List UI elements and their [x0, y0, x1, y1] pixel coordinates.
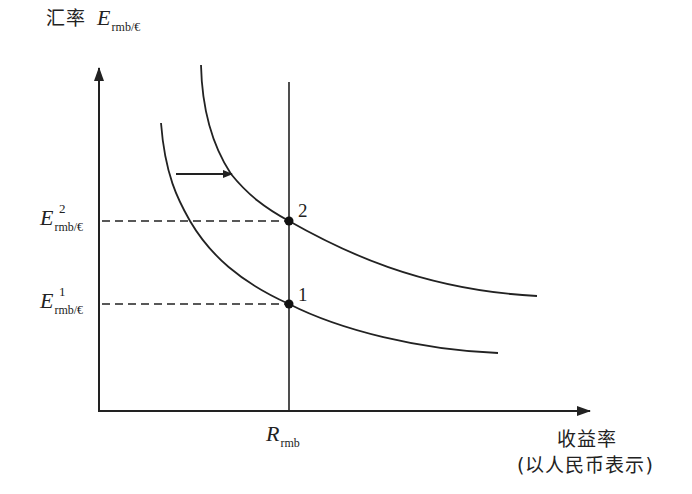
- shifted-demand-curve: [201, 65, 537, 296]
- y-axis-subscript: rmb/€: [112, 20, 141, 34]
- equilibrium-point-2: [285, 217, 294, 226]
- x-marker-symbol: R: [266, 421, 279, 446]
- y-axis-symbol: E: [97, 5, 110, 30]
- diagram-canvas: [0, 0, 692, 494]
- x-axis-title-line1: 收益率: [557, 424, 617, 451]
- point-label-2: 2: [298, 200, 308, 222]
- exchange-rate-diagram: 汇率 Ermb/€ E2rmb/€ E1rmb/€ Rrmb 2 1 收益率 (…: [0, 0, 692, 494]
- y-marker-e1-superscript: 1: [59, 284, 66, 300]
- y-marker-e1-symbol: E: [40, 288, 53, 313]
- y-axis-title: 汇率 Ermb/€: [46, 3, 140, 31]
- y-marker-e1: E1rmb/€: [40, 288, 83, 314]
- initial-demand-curve: [161, 123, 498, 353]
- x-marker-subscript: rmb: [280, 436, 299, 450]
- point-label-1: 1: [298, 284, 308, 306]
- equilibrium-point-1: [285, 300, 294, 309]
- y-axis-label-cn: 汇率: [46, 7, 86, 29]
- y-marker-e2-superscript: 2: [59, 201, 66, 217]
- y-marker-e2-subscript: rmb/€: [54, 220, 83, 234]
- x-axis-title-line2: (以人民币表示): [517, 450, 654, 477]
- y-marker-e2-symbol: E: [40, 205, 53, 230]
- x-marker-rrmb: Rrmb: [266, 421, 300, 447]
- y-marker-e1-subscript: rmb/€: [54, 303, 83, 317]
- y-marker-e2: E2rmb/€: [40, 205, 83, 231]
